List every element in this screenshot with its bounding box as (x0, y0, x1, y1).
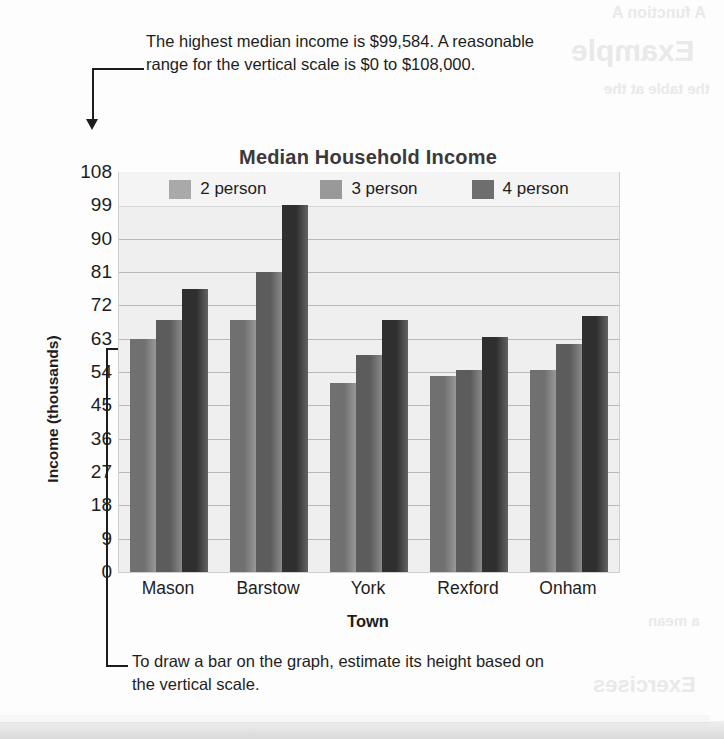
y-tick-label: 108 (52, 161, 112, 183)
x-axis-label: Town (118, 612, 618, 631)
ghost-text-4: a mean (648, 612, 700, 629)
y-tick-label: 9 (52, 528, 112, 550)
y-tick-label: 54 (52, 361, 112, 383)
y-tick-label: 63 (52, 328, 112, 350)
y-tick-label: 0 (52, 561, 112, 583)
bar-group (419, 172, 519, 572)
ghost-text-3: the table at the (604, 80, 710, 97)
bar (182, 289, 208, 572)
x-tick-label: York (318, 578, 418, 599)
down-arrow-icon (86, 119, 98, 130)
x-tick-label: Rexford (418, 578, 518, 599)
bar-groups (119, 172, 619, 572)
bar (456, 370, 482, 572)
ghost-text-5: Exercises (593, 672, 696, 698)
y-tick-label: 72 (52, 294, 112, 316)
top-leader-horizontal (92, 68, 144, 70)
x-tick-label: Barstow (218, 578, 318, 599)
bar (582, 316, 608, 572)
bar-group (319, 172, 419, 572)
bar (556, 344, 582, 572)
y-tick-label: 36 (52, 428, 112, 450)
bar (482, 337, 508, 572)
y-axis-ticks: 1089990817263544536271890 (52, 172, 112, 572)
bar (230, 320, 256, 572)
page-background: A function A Example the table at the a … (0, 0, 724, 739)
bar (430, 376, 456, 572)
bar (156, 320, 182, 572)
bar (130, 339, 156, 572)
top-annotation: The highest median income is $99,584. A … (146, 30, 546, 76)
bar (382, 320, 408, 572)
bar-group (519, 172, 619, 572)
y-tick-label: 27 (52, 461, 112, 483)
ghost-text-2: Example (571, 34, 694, 68)
bar (282, 205, 308, 572)
x-tick-label: Mason (118, 578, 218, 599)
bar (356, 355, 382, 572)
y-tick-label: 45 (52, 394, 112, 416)
top-leader-vertical (92, 68, 94, 123)
ghost-text-1: A function A (612, 4, 706, 22)
y-tick-label: 90 (52, 228, 112, 250)
page-footer-bar (0, 721, 724, 739)
bar (256, 272, 282, 572)
bar-group (119, 172, 219, 572)
chart-title: Median Household Income (118, 146, 618, 169)
x-axis-ticks: MasonBarstowYorkRexfordOnham (118, 578, 618, 599)
bracket-bottom-stub (106, 665, 128, 667)
y-tick-label: 81 (52, 261, 112, 283)
bar (530, 370, 556, 572)
plot-area: 2 person3 person4 person (118, 172, 620, 573)
y-tick-label: 18 (52, 494, 112, 516)
y-tick-label: 99 (52, 194, 112, 216)
bar (330, 383, 356, 572)
x-tick-label: Onham (518, 578, 618, 599)
bottom-annotation: To draw a bar on the graph, estimate its… (132, 650, 552, 696)
bar-group (219, 172, 319, 572)
